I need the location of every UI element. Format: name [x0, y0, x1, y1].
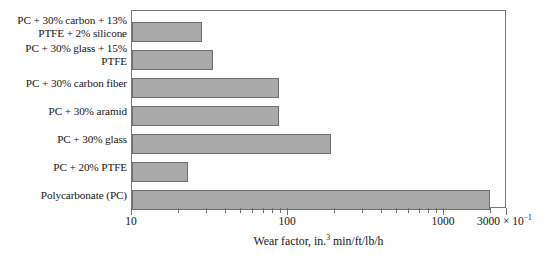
category-label-polycarbonate: Polycarbonate (PC): [41, 189, 127, 202]
x-tick-minor-30: [206, 208, 207, 213]
x-tick-1000: [443, 208, 444, 215]
x-tick-minor-20: [178, 208, 179, 213]
x-tick-minor-90: [280, 208, 281, 213]
bar-pc-aramid: [132, 106, 279, 126]
category-label-pc-glass: PC + 30% glass: [57, 133, 127, 146]
x-tick-minor-50: [240, 208, 241, 213]
x-tick-label-1000: 1000: [432, 215, 455, 228]
bar-polycarbonate: [132, 190, 490, 210]
x-tick-minor-900: [436, 208, 437, 213]
category-label-pc-glass-ptfe: PC + 30% glass + 15% PTFE: [25, 42, 127, 67]
x-tick-minor-200: [334, 208, 335, 213]
x-tick-minor-80: [272, 208, 273, 213]
x-tick-label-3000-multiplier: 3000 × 10−1: [477, 215, 532, 228]
category-label-pc-carbon-ptfe-silicone: PC + 30% carbon + 13% PTFE + 2% silicone: [17, 14, 127, 39]
x-axis-exponent: −1: [524, 213, 532, 222]
plot-area: [131, 10, 506, 208]
x-tick-minor-2000: [490, 208, 491, 213]
bar-pc-glass: [132, 134, 331, 154]
x-tick-minor-500: [396, 208, 397, 213]
x-tick-minor-300: [362, 208, 363, 213]
x-tick-minor-600: [408, 208, 409, 213]
x-tick-minor-40: [225, 208, 226, 213]
bar-pc-ptfe: [132, 162, 188, 182]
x-tick-label-3000-base: 3000 × 10: [477, 215, 524, 227]
bar-pc-carbon-ptfe-silicone: [132, 22, 202, 42]
x-axis-title-part1: Wear factor, in.: [254, 234, 327, 248]
bar-pc-carbon-fiber: [132, 78, 279, 98]
category-label-pc-carbon-fiber: PC + 30% carbon fiber: [26, 77, 127, 90]
x-tick-label-10: 10: [125, 215, 137, 228]
x-axis-title: Wear factor, in.3 min/ft/lb/h: [131, 234, 506, 249]
category-label-pc-aramid: PC + 30% aramid: [49, 105, 127, 118]
wear-factor-bar-chart: PC + 30% carbon + 13% PTFE + 2% silicone…: [0, 0, 550, 261]
x-tick-minor-700: [419, 208, 420, 213]
category-label-pc-ptfe: PC + 20% PTFE: [53, 161, 127, 174]
x-tick-label-100: 100: [278, 215, 295, 228]
x-tick-minor-60: [252, 208, 253, 213]
x-tick-3000: [506, 208, 507, 215]
x-tick-minor-800: [428, 208, 429, 213]
x-tick-minor-70: [263, 208, 264, 213]
bar-pc-glass-ptfe: [132, 50, 213, 70]
x-tick-100: [287, 208, 288, 215]
x-tick-10: [131, 208, 132, 215]
x-axis-title-part2: min/ft/lb/h: [330, 234, 383, 248]
x-tick-minor-400: [381, 208, 382, 213]
